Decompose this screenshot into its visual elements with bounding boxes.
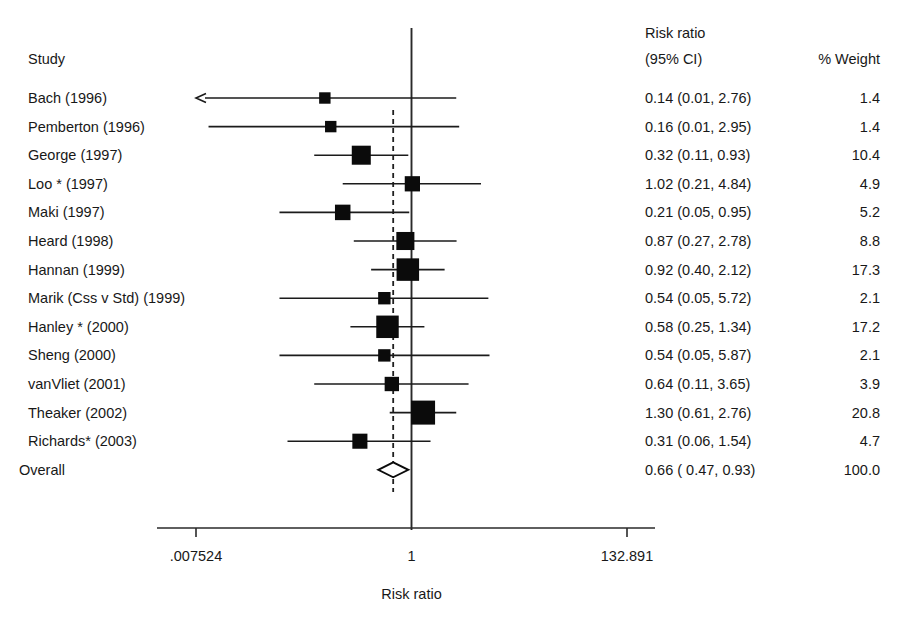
row-weight-value: 17.2: [852, 319, 880, 335]
row-study-label: George (1997): [28, 147, 122, 163]
overall-diamond: [378, 462, 408, 477]
effect-marker: [325, 121, 336, 132]
x-axis-tick-label: .007524: [170, 548, 222, 564]
effect-marker: [397, 258, 420, 281]
row-effect-value: 0.58 (0.25, 1.34): [645, 319, 751, 335]
row-weight-value: 8.8: [860, 233, 880, 249]
effect-marker: [319, 92, 330, 103]
row-study-label: Maki (1997): [28, 204, 105, 220]
row-study-label: Hannan (1999): [28, 262, 125, 278]
row-weight-value: 4.9: [860, 176, 880, 192]
ci-left-arrowhead: [196, 94, 206, 103]
forest-row[interactable]: [390, 401, 457, 425]
forest-row[interactable]: [209, 121, 460, 132]
row-effect-value: 0.32 (0.11, 0.93): [645, 147, 750, 163]
row-weight-value: 1.4: [860, 90, 880, 106]
rows-layer: [196, 92, 490, 477]
forest-row[interactable]: [371, 258, 445, 281]
overall-weight-value: 100.0: [844, 462, 880, 478]
row-weight-value: 3.9: [860, 376, 880, 392]
forest-row[interactable]: [196, 92, 456, 103]
row-effect-value: 1.30 (0.61, 2.76): [645, 405, 751, 421]
row-study-label: Theaker (2002): [28, 405, 127, 421]
effect-marker: [378, 292, 390, 304]
row-effect-value: 0.31 (0.06, 1.54): [645, 433, 751, 449]
row-effect-value: 0.54 (0.05, 5.87): [645, 347, 751, 363]
row-effect-value: 0.16 (0.01, 2.95): [645, 119, 751, 135]
row-weight-value: 10.4: [852, 147, 880, 163]
row-effect-value: 0.21 (0.05, 0.95): [645, 204, 751, 220]
row-weight-value: 20.8: [852, 405, 880, 421]
row-effect-value: 0.87 (0.27, 2.78): [645, 233, 751, 249]
row-weight-value: 5.2: [860, 204, 880, 220]
forest-row[interactable]: [279, 292, 488, 304]
effect-marker: [352, 434, 367, 449]
column-header-weight: % Weight: [818, 51, 880, 67]
row-study-label: Marik (Css v Std) (1999): [28, 290, 185, 306]
text-layer: StudyRisk ratio(95% CI)% WeightBach (199…: [19, 25, 880, 602]
column-header-effect-line2: (95% CI): [645, 51, 702, 67]
forest-row[interactable]: [354, 232, 457, 250]
x-axis-title: Risk ratio: [381, 586, 441, 602]
forest-row[interactable]: [279, 205, 409, 221]
effect-marker: [385, 377, 399, 391]
effect-marker: [352, 146, 371, 165]
forest-plot: StudyRisk ratio(95% CI)% WeightBach (199…: [0, 0, 910, 638]
row-study-label: vanVliet (2001): [28, 376, 126, 392]
row-effect-value: 0.54 (0.05, 5.72): [645, 290, 751, 306]
x-axis-tick-label: 1: [407, 548, 415, 564]
forest-row[interactable]: [314, 377, 468, 391]
row-effect-value: 0.64 (0.11, 3.65): [645, 376, 750, 392]
row-study-label: Loo * (1997): [28, 176, 108, 192]
effect-marker: [411, 401, 435, 425]
row-weight-value: 4.7: [860, 433, 880, 449]
forest-row[interactable]: [288, 434, 431, 449]
effect-marker: [335, 205, 351, 221]
column-header-effect-line1: Risk ratio: [645, 25, 705, 41]
forest-plot-canvas: StudyRisk ratio(95% CI)% WeightBach (199…: [0, 0, 910, 638]
row-study-label: Richards* (2003): [28, 433, 137, 449]
effect-marker: [376, 316, 398, 338]
effect-marker: [378, 349, 390, 361]
overall-effect-value: 0.66 ( 0.47, 0.93): [645, 462, 755, 478]
row-effect-value: 0.92 (0.40, 2.12): [645, 262, 751, 278]
forest-row[interactable]: [314, 146, 408, 165]
axis-layer: [157, 528, 655, 537]
forest-row[interactable]: [343, 176, 481, 191]
row-study-label: Bach (1996): [28, 90, 107, 106]
row-study-label: Heard (1998): [28, 233, 113, 249]
row-weight-value: 2.1: [860, 290, 880, 306]
forest-row[interactable]: [279, 349, 489, 361]
row-study-label: Pemberton (1996): [28, 119, 145, 135]
forest-row[interactable]: [350, 316, 424, 338]
row-study-label: Sheng (2000): [28, 347, 116, 363]
x-axis-tick-label: 132.891: [601, 548, 653, 564]
overall-label: Overall: [19, 462, 65, 478]
row-weight-value: 2.1: [860, 347, 880, 363]
row-effect-value: 0.14 (0.01, 2.76): [645, 90, 751, 106]
row-weight-value: 1.4: [860, 119, 880, 135]
row-effect-value: 1.02 (0.21, 4.84): [645, 176, 751, 192]
effect-marker: [405, 176, 420, 191]
column-header-study: Study: [28, 51, 66, 67]
row-study-label: Hanley * (2000): [28, 319, 129, 335]
row-weight-value: 17.3: [852, 262, 880, 278]
effect-marker: [396, 232, 414, 250]
